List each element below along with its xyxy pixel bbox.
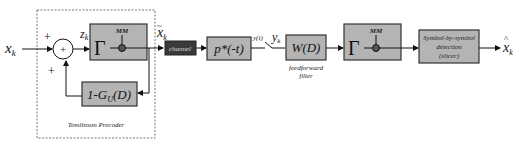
- feedforward-filter-label: W(D): [292, 40, 321, 55]
- slicer-line-1: Symbol-by-symbol: [423, 34, 475, 42]
- sampler-switch: [265, 42, 272, 48]
- gamma-symbol-2: Γ: [348, 37, 360, 59]
- modulo-node-icon: [119, 45, 126, 52]
- feedback-return-arrow: [66, 61, 82, 96]
- yt-label: y(t): [252, 34, 263, 42]
- gamma-symbol: Γ: [94, 37, 106, 59]
- z-label: zk: [79, 27, 89, 42]
- yk-label: yk: [271, 30, 281, 45]
- sum-symbol: +: [60, 43, 66, 55]
- mm-tag-2: MM: [369, 27, 383, 35]
- sum-plus-top: +: [44, 30, 51, 44]
- sum-plus-bottom: +: [48, 64, 55, 78]
- input-label: xk: [4, 40, 17, 58]
- ff-caption-1: feedforward: [289, 64, 323, 72]
- tilde-mark: ~: [157, 21, 162, 31]
- slicer-line-3: (slicer): [439, 52, 460, 60]
- precoder-caption: Tomlinson Precoder: [68, 121, 125, 129]
- mm-tag: MM: [115, 27, 129, 35]
- tomlinson-precoder-diagram: Tomlinson Precoder xk + + + zk Γ MM xk ~…: [0, 0, 521, 145]
- modulo-node-icon-2: [373, 45, 380, 52]
- channel-label: channel: [169, 45, 191, 53]
- matched-filter-label: p*(-t): [213, 41, 244, 56]
- ff-caption-2: filter: [299, 72, 313, 80]
- slicer-line-2: detection: [436, 43, 462, 51]
